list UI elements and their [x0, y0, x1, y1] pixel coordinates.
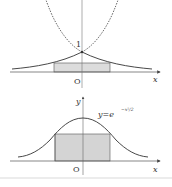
bottom-graph: y y=e −x²/2 O x [10, 97, 160, 175]
dashed-curve-right [82, 0, 118, 52]
intercept-label: 1 [76, 40, 81, 49]
top-x-label: x [153, 75, 158, 84]
function-exponent: −x²/2 [121, 107, 134, 112]
bottom-shaded-rectangle [55, 134, 110, 161]
bottom-x-label: x [153, 165, 158, 174]
figure-canvas: 1 O x y y=e −x²/2 O x [0, 0, 172, 187]
top-origin-label: O [74, 77, 81, 86]
function-label: y=e [97, 110, 114, 119]
intersection-point [81, 51, 83, 53]
bottom-y-label: y [75, 97, 81, 106]
bottom-origin-label: O [73, 165, 80, 174]
top-graph: 1 O x [10, 0, 160, 88]
